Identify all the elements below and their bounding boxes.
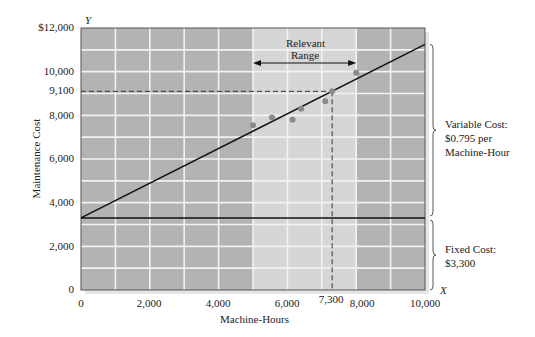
x-axis-letter: X [440,284,447,297]
fixed-cost-line1: Fixed Cost: [445,242,496,256]
fixed-cost-line2: $3,300 [445,256,475,270]
data-point [329,88,335,94]
data-point [290,117,296,123]
y-tick-9100: 9,100 [4,84,74,97]
fixed-cost-brace [430,220,436,290]
x-axis-label: Machine-Hours [220,313,289,326]
x-tick-0: 0 [56,297,106,310]
y-tick-2000: 2,000 [4,240,74,253]
y-axis-letter: Y [85,14,91,27]
y-axis-label: Maintenance Cost [30,109,43,209]
variable-cost-line1: Variable Cost: [445,117,508,131]
data-point [250,122,256,128]
x-tick-8000: 8,000 [337,297,387,310]
y-tick-12000: $12,000 [4,21,74,34]
variable-cost-brace [430,44,436,216]
relevant-range-label-2: Range [291,49,319,62]
data-point [269,115,275,121]
data-point [353,70,359,76]
x-tick-4000: 4,000 [193,297,243,310]
data-point [322,98,328,104]
variable-cost-line2: $0.795 per [445,131,492,145]
chart-canvas [0,0,535,337]
y-tick-10000: 10,000 [4,65,74,78]
data-point [298,106,304,112]
y-tick-0: 0 [4,283,74,296]
x-tick-2000: 2,000 [124,297,174,310]
x-tick-6000: 6,000 [262,297,312,310]
x-tick-10000: 10,000 [400,297,450,310]
variable-cost-line3: Machine-Hour [445,145,510,159]
